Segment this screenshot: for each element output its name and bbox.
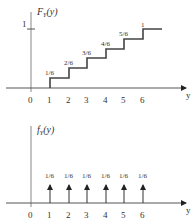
svg-text:4: 4: [103, 210, 108, 220]
cdf-x-ticks: 0 1 2 3 4 5 6: [28, 95, 145, 105]
svg-text:5: 5: [121, 210, 126, 220]
cdf-step-label-4: 4/6: [101, 40, 110, 48]
cdf-x-label: y: [186, 90, 191, 100]
cdf-step-label-5: 5/6: [119, 30, 128, 38]
svg-text:1/6: 1/6: [45, 172, 54, 180]
svg-text:6: 6: [140, 210, 145, 220]
cdf-one-label: 1: [22, 19, 27, 29]
pmf-impulses: [50, 185, 143, 203]
svg-text:0: 0: [28, 95, 33, 105]
svg-text:1: 1: [47, 210, 52, 220]
svg-text:1/6: 1/6: [101, 172, 110, 180]
diagram-canvas: 1 FY(y) y 1/6 2/6 3/6 4/6 5/6 1 0 1 2 3 …: [0, 0, 196, 222]
svg-text:4: 4: [103, 95, 108, 105]
svg-text:6: 6: [140, 95, 145, 105]
svg-text:0: 0: [28, 210, 33, 220]
cdf-step-label-3: 3/6: [82, 49, 91, 57]
pmf-x-label: y: [186, 205, 191, 215]
cdf-step-label-2: 2/6: [64, 59, 73, 67]
svg-text:2: 2: [66, 95, 71, 105]
svg-text:5: 5: [121, 95, 126, 105]
svg-text:1/6: 1/6: [64, 172, 73, 180]
pmf-impulse-labels: 1/6 1/6 1/6 1/6 1/6 1/6: [45, 172, 147, 180]
cdf-plot: 1 FY(y) y 1/6 2/6 3/6 4/6 5/6 1 0 1 2 3 …: [6, 6, 191, 105]
pmf-y-label: fY(y): [37, 124, 55, 136]
pmf-x-ticks: 0 1 2 3 4 5 6: [28, 210, 145, 220]
svg-text:1/6: 1/6: [119, 172, 128, 180]
cdf-step-label-6: 1: [141, 21, 145, 29]
svg-text:1: 1: [47, 95, 52, 105]
svg-text:2: 2: [66, 210, 71, 220]
cdf-step-label-1: 1/6: [45, 69, 54, 77]
svg-text:1/6: 1/6: [82, 172, 91, 180]
pmf-plot: fY(y) y 1/6 1/6 1/6 1/6 1/6 1/6 0 1 2 3 …: [6, 124, 191, 220]
svg-text:3: 3: [84, 95, 89, 105]
cdf-y-label: FY(y): [36, 6, 58, 18]
svg-text:3: 3: [84, 210, 89, 220]
svg-text:1/6: 1/6: [138, 172, 147, 180]
